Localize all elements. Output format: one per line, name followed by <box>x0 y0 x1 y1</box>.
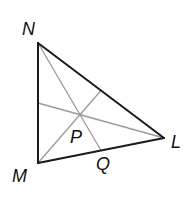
vertex-label-m: M <box>12 166 27 186</box>
midpoint-label-q: Q <box>96 154 110 174</box>
vertex-label-n: N <box>22 19 36 39</box>
side-ln <box>38 43 164 138</box>
median-from-l <box>38 103 164 138</box>
triangle-diagram: N M L P Q <box>0 0 196 197</box>
vertex-label-l: L <box>171 132 181 152</box>
centroid-label-p: P <box>70 127 82 147</box>
